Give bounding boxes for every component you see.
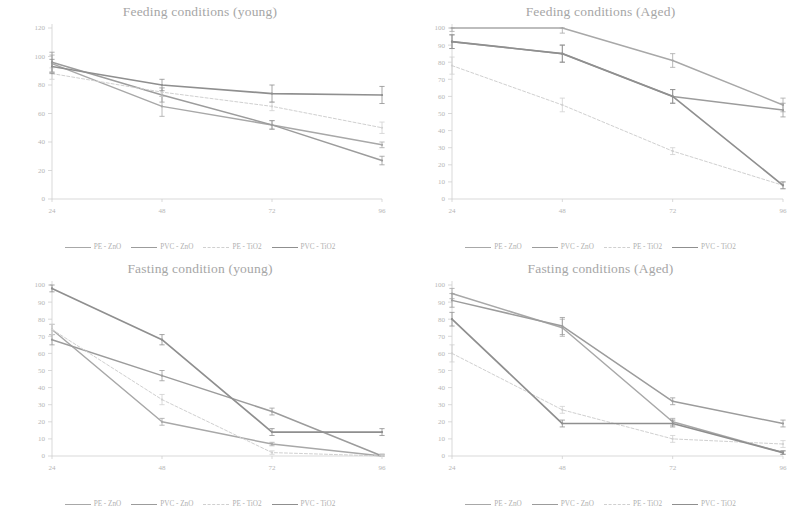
data-point bbox=[381, 431, 383, 433]
legend-item-pe_zno[interactable]: PE - ZnO bbox=[65, 244, 122, 251]
data-point bbox=[271, 431, 273, 433]
data-point bbox=[161, 339, 163, 341]
data-point bbox=[672, 95, 674, 97]
y-axis-tick-label: 60 bbox=[38, 110, 46, 118]
y-axis-tick-label: 10 bbox=[438, 178, 446, 186]
legend-item-pvc_tio2[interactable]: PVC - TiO2 bbox=[672, 244, 736, 251]
legend-swatch-icon bbox=[465, 247, 491, 248]
legend-item-pvc_tio2[interactable]: PVC - TiO2 bbox=[272, 244, 336, 251]
y-axis-tick-label: 30 bbox=[38, 401, 46, 409]
data-point bbox=[381, 144, 383, 146]
legend-swatch-icon bbox=[272, 247, 298, 248]
x-axis-tick-label: 24 bbox=[49, 464, 57, 472]
y-axis-tick-label: 40 bbox=[38, 138, 46, 146]
legend-swatch-icon bbox=[604, 504, 630, 505]
legend-item-pe_tio2[interactable]: PE - TiO2 bbox=[604, 501, 662, 508]
y-axis-tick-label: 10 bbox=[38, 435, 46, 443]
data-point bbox=[51, 328, 53, 330]
chart-panel-fasting-young: Fasting condition (young) 01020304050607… bbox=[0, 257, 400, 514]
legend-item-pvc_zno[interactable]: PVC - ZnO bbox=[131, 501, 193, 508]
legend-swatch-icon bbox=[203, 504, 229, 505]
data-point bbox=[271, 105, 273, 107]
line-chart-svg: 010203040506070809010024487296 bbox=[400, 257, 801, 514]
legend-item-pvc_tio2[interactable]: PVC - TiO2 bbox=[272, 501, 336, 508]
x-axis-tick-label: 24 bbox=[449, 207, 457, 215]
data-point bbox=[51, 65, 53, 67]
legend-item-pvc_tio2[interactable]: PVC - TiO2 bbox=[672, 501, 736, 508]
legend-item-pvc_zno[interactable]: PVC - ZnO bbox=[131, 244, 193, 251]
legend-swatch-icon bbox=[672, 504, 698, 505]
y-axis-tick-label: 90 bbox=[438, 299, 446, 307]
y-axis-tick-label: 100 bbox=[35, 281, 46, 289]
legend-item-pe_zno[interactable]: PE - ZnO bbox=[65, 501, 122, 508]
data-point bbox=[271, 443, 273, 445]
data-point bbox=[561, 53, 563, 55]
plot-area: 02040608010012024487296 bbox=[0, 0, 400, 257]
legend-item-pe_zno[interactable]: PE - ZnO bbox=[465, 501, 522, 508]
series-line-pe_zno bbox=[452, 294, 783, 453]
y-axis-tick-label: 20 bbox=[438, 161, 446, 169]
y-axis-tick-label: 50 bbox=[38, 367, 46, 375]
legend-swatch-icon bbox=[532, 504, 558, 505]
legend-item-pe_zno[interactable]: PE - ZnO bbox=[465, 244, 522, 251]
data-point bbox=[782, 451, 784, 453]
legend-item-pe_tio2[interactable]: PE - TiO2 bbox=[203, 501, 261, 508]
data-point bbox=[161, 421, 163, 423]
legend-item-pvc_zno[interactable]: PVC - ZnO bbox=[532, 501, 594, 508]
chart-legend: PE - ZnOPVC - ZnOPE - TiO2PVC - TiO2 bbox=[400, 244, 801, 251]
y-axis-tick-label: 40 bbox=[38, 384, 46, 392]
legend-swatch-icon bbox=[203, 247, 229, 248]
legend-swatch-icon bbox=[465, 504, 491, 505]
plot-area: 010203040506070809010024487296 bbox=[400, 0, 801, 257]
data-point bbox=[161, 375, 163, 377]
chart-legend: PE - ZnOPVC - ZnOPE - TiO2PVC - TiO2 bbox=[400, 501, 801, 508]
y-axis-tick-label: 40 bbox=[438, 127, 446, 135]
y-axis-tick-label: 70 bbox=[438, 333, 446, 341]
y-axis-tick-label: 10 bbox=[438, 435, 446, 443]
y-axis-tick-label: 0 bbox=[42, 195, 46, 203]
legend-swatch-icon bbox=[672, 247, 698, 248]
chart-panel-fasting-aged: Fasting conditions (Aged) 01020304050607… bbox=[400, 257, 801, 514]
y-axis-tick-label: 80 bbox=[38, 81, 46, 89]
data-point bbox=[561, 409, 563, 411]
y-axis-tick-label: 120 bbox=[35, 24, 46, 32]
y-axis-tick-label: 60 bbox=[438, 350, 446, 358]
x-axis-tick-label: 72 bbox=[669, 207, 677, 215]
data-point bbox=[161, 398, 163, 400]
data-point bbox=[782, 184, 784, 186]
legend-label: PE - ZnO bbox=[94, 244, 122, 251]
series-line-pe_zno bbox=[452, 28, 783, 105]
chart-legend: PE - ZnOPVC - ZnOPE - TiO2PVC - TiO2 bbox=[0, 244, 400, 251]
data-point bbox=[672, 438, 674, 440]
data-point bbox=[381, 94, 383, 96]
legend-label: PE - TiO2 bbox=[633, 244, 662, 251]
series-line-pvc_tio2 bbox=[52, 288, 382, 432]
y-axis-tick-label: 20 bbox=[38, 418, 46, 426]
series-line-pvc_zno bbox=[452, 300, 783, 423]
y-axis-tick-label: 20 bbox=[38, 167, 46, 175]
legend-label: PE - TiO2 bbox=[232, 244, 261, 251]
legend-item-pe_tio2[interactable]: PE - TiO2 bbox=[203, 244, 261, 251]
data-point bbox=[51, 339, 53, 341]
data-point bbox=[561, 325, 563, 327]
line-chart-svg: 010203040506070809010024487296 bbox=[0, 257, 400, 514]
chart-grid: Feeding conditions (young) 0204060801001… bbox=[0, 0, 801, 514]
series-line-pvc_tio2 bbox=[452, 42, 783, 186]
legend-swatch-icon bbox=[532, 247, 558, 248]
legend-item-pe_tio2[interactable]: PE - TiO2 bbox=[604, 244, 662, 251]
x-axis-tick-label: 72 bbox=[669, 464, 677, 472]
legend-label: PVC - ZnO bbox=[561, 501, 594, 508]
data-point bbox=[381, 455, 383, 457]
legend-label: PE - TiO2 bbox=[633, 501, 662, 508]
data-point bbox=[161, 84, 163, 86]
legend-label: PVC - TiO2 bbox=[301, 244, 336, 251]
y-axis-tick-label: 30 bbox=[438, 144, 446, 152]
data-point bbox=[451, 299, 453, 301]
plot-area: 010203040506070809010024487296 bbox=[0, 257, 400, 514]
legend-swatch-icon bbox=[272, 504, 298, 505]
series-line-pvc_zno bbox=[52, 62, 382, 160]
data-point bbox=[161, 91, 163, 93]
series-line-pe_tio2 bbox=[52, 74, 382, 128]
legend-label: PVC - TiO2 bbox=[701, 244, 736, 251]
legend-item-pvc_zno[interactable]: PVC - ZnO bbox=[532, 244, 594, 251]
